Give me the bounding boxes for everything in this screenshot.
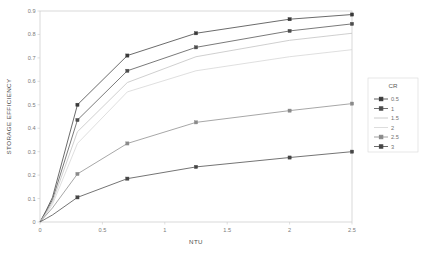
y-axis-tick-label: 0.1	[28, 196, 36, 202]
legend-item-label: 3	[391, 144, 394, 150]
data-point-marker	[126, 177, 129, 180]
data-point-marker	[350, 22, 353, 25]
data-point-marker	[76, 103, 79, 106]
line-chart: 00.10.20.30.40.50.60.70.80.900.511.522.5…	[0, 0, 422, 263]
y-axis-tick-label: 0.3	[28, 149, 36, 155]
data-point-marker	[288, 109, 291, 112]
data-point-marker	[350, 150, 353, 153]
x-axis-tick-label: 1	[163, 227, 166, 233]
plot-area	[40, 11, 352, 222]
data-point-marker	[76, 196, 79, 199]
legend-item-label: 1.5	[391, 115, 399, 121]
x-axis-tick-label: 1.5	[223, 227, 231, 233]
data-point-marker	[126, 54, 129, 57]
x-axis-tick-label: 0	[38, 227, 41, 233]
x-axis-tick-label: 0.5	[99, 227, 107, 233]
y-axis-tick-label: 0.6	[28, 78, 36, 84]
legend-marker-swatch	[379, 145, 382, 148]
data-point-marker	[76, 118, 79, 121]
legend-item-label: 1	[391, 106, 394, 112]
data-point-marker	[126, 142, 129, 145]
legend-item-label: 2	[391, 125, 394, 131]
x-axis-tick-label: 2	[288, 227, 291, 233]
data-point-marker	[350, 102, 353, 105]
legend-marker-swatch	[379, 107, 382, 110]
legend-item-label: 0.5	[391, 96, 399, 102]
x-axis-title: NTU	[189, 238, 203, 245]
data-point-marker	[194, 46, 197, 49]
data-point-marker	[194, 121, 197, 124]
legend-item-label: 2.5	[391, 134, 399, 140]
data-point-marker	[350, 13, 353, 16]
data-point-marker	[76, 172, 79, 175]
y-axis-tick-label: 0.2	[28, 172, 36, 178]
legend-title: CR	[389, 82, 398, 89]
data-point-marker	[288, 18, 291, 21]
legend-marker-swatch	[379, 135, 382, 138]
y-axis-tick-label: 0.9	[28, 8, 36, 14]
data-point-marker	[288, 156, 291, 159]
data-point-marker	[126, 69, 129, 72]
data-point-marker	[288, 29, 291, 32]
legend-marker-swatch	[379, 97, 382, 100]
y-axis-tick-label: 0.7	[28, 55, 36, 61]
y-axis-tick-label: 0.8	[28, 31, 36, 37]
y-axis-tick-label: 0	[32, 219, 35, 225]
data-point-marker	[194, 32, 197, 35]
data-point-marker	[194, 165, 197, 168]
y-axis-tick-label: 0.4	[28, 125, 36, 131]
chart-canvas: 00.10.20.30.40.50.60.70.80.900.511.522.5…	[0, 0, 422, 263]
y-axis-title: STORAGE EFFICIENCY	[5, 79, 12, 155]
x-axis-tick-label: 2.5	[348, 227, 356, 233]
y-axis-tick-label: 0.5	[28, 102, 36, 108]
chart-container: 00.10.20.30.40.50.60.70.80.900.511.522.5…	[0, 0, 422, 263]
